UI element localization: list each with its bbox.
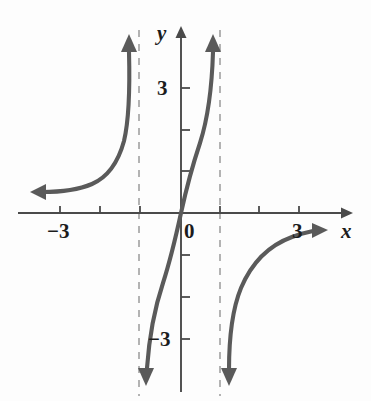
curve-right-branch-path bbox=[229, 231, 313, 370]
graph-figure: −3 3 3 −3 0 x y bbox=[0, 0, 371, 401]
x-axis bbox=[18, 206, 353, 219]
origin-label: 0 bbox=[184, 219, 195, 243]
curve-center-branch-arrow-down bbox=[138, 368, 154, 386]
curve-right-branch bbox=[221, 223, 328, 386]
curve-left-branch-arrow-left bbox=[30, 184, 46, 200]
y-axis-arrowhead bbox=[176, 26, 187, 38]
curve-center-branch-arrow-up bbox=[205, 34, 221, 52]
curve-left-branch bbox=[30, 34, 137, 200]
x-tick-label-neg3: −3 bbox=[47, 219, 69, 243]
y-axis-label: y bbox=[154, 21, 167, 45]
curve-right-branch-arrow-right bbox=[312, 223, 328, 238]
x-axis-label: x bbox=[340, 219, 352, 243]
x-tick-label-pos3: 3 bbox=[292, 219, 303, 243]
y-tick-label-neg3: −3 bbox=[148, 327, 170, 351]
curve-left-branch-arrow-up bbox=[121, 34, 137, 52]
curve-left-branch-path bbox=[42, 52, 129, 192]
y-tick-label-pos3: 3 bbox=[157, 76, 168, 100]
graph-canvas: −3 3 3 −3 0 x y bbox=[0, 0, 371, 401]
x-axis-arrowhead bbox=[341, 208, 353, 219]
curve-right-branch-arrow-down bbox=[221, 368, 237, 386]
